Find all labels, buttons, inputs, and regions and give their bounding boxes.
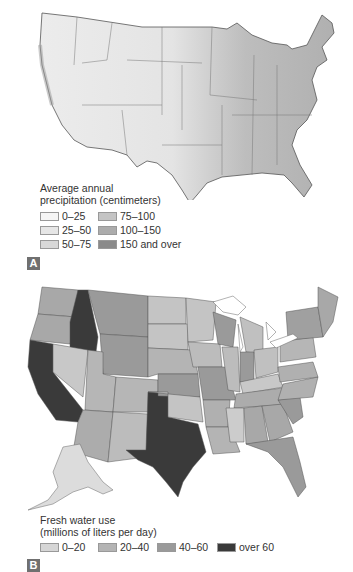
precipitation-legend: Average annual precipitation (centimeter… [40,182,161,206]
state-oregon [30,314,76,344]
legend-label: 100–150 [120,224,161,236]
state-washington [38,287,78,317]
legend-item-over-60: over 60 [217,541,274,553]
swatch [40,240,59,249]
legend-label: 40–60 [179,541,208,553]
legend-item-100-150: 100–150 [98,224,161,236]
panel-b-badge: B [27,559,40,572]
legend-item-20-40: 20–40 [98,541,149,553]
state-wisconsin [213,312,236,347]
legend-title-line1: Average annual [40,182,161,194]
legend-label: 20–40 [120,541,149,553]
swatch [98,226,117,235]
state-minnesota [186,298,216,342]
legend-label: 0–25 [62,210,85,222]
precipitation-map [22,5,337,200]
legend-label: 75–100 [120,210,155,222]
legend-title-line2: (millions of liters per day) [40,526,157,538]
legend-label: over 60 [239,541,274,553]
swatch [40,226,59,235]
state-indiana [240,352,254,382]
legend-title-line2: precipitation (centimeters) [40,194,161,206]
state-michigan [240,317,263,354]
legend-item-75-100: 75–100 [98,210,155,222]
swatch [98,240,117,249]
legend-item-0-25: 0–25 [40,210,85,222]
legend-label: 25–50 [62,224,91,236]
state-iowa [188,342,222,367]
state-ohio [254,347,278,378]
legend-label: 150 and over [120,238,181,250]
state-montana [88,290,148,337]
swatch [40,543,59,552]
swatch [157,543,176,552]
us-outline-a [40,13,334,200]
legend-label: 0–20 [62,541,85,553]
swatch [217,543,236,552]
water-use-map [8,282,348,512]
water-use-legend: Fresh water use (millions of liters per … [40,514,157,538]
legend-item-150-over: 150 and over [98,238,181,250]
legend-item-0-20: 0–20 [40,541,85,553]
swatch [40,212,59,221]
state-wyoming [100,334,148,377]
state-south-dakota [148,324,188,350]
legend-item-40-60: 40–60 [157,541,208,553]
legend-item-50-75: 50–75 [40,238,91,250]
swatch [98,212,117,221]
legend-label: 50–75 [62,238,91,250]
panel-a-badge: A [27,257,40,270]
legend-title-line1: Fresh water use [40,514,157,526]
legend-item-25-50: 25–50 [40,224,91,236]
state-arkansas [203,400,230,427]
state-florida [246,437,306,497]
swatch [98,543,117,552]
state-north-dakota [148,296,186,324]
